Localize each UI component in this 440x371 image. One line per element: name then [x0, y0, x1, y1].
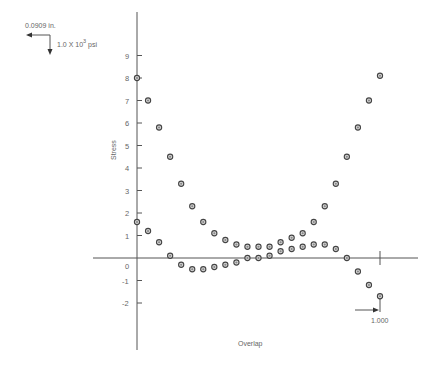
data-point-center [291, 237, 293, 239]
data-point-center [136, 77, 138, 79]
data-point-center [257, 246, 259, 248]
data-point-center [346, 156, 348, 158]
data-point-center [257, 257, 259, 259]
y-tick-label: 2 [125, 209, 129, 218]
x-axis-label: Overlap [238, 340, 263, 348]
data-point-center [202, 221, 204, 223]
data-point-center [191, 205, 193, 207]
data-point-center [180, 183, 182, 185]
data-point-center [324, 205, 326, 207]
data-point-center [169, 156, 171, 158]
horizontal-scale-label: 0.0909 in. [25, 22, 56, 29]
data-point-center [246, 257, 248, 259]
data-point-center [302, 246, 304, 248]
data-point-center [213, 232, 215, 234]
data-point-center [180, 264, 182, 266]
y-tick-label: 1 [125, 232, 129, 241]
data-point-center [136, 221, 138, 223]
data-point-center [224, 239, 226, 241]
y-tick-label: -1 [122, 277, 129, 286]
data-point-center [368, 284, 370, 286]
y-tick-label: 8 [125, 74, 129, 83]
data-point-center [379, 295, 381, 297]
data-point-center [291, 248, 293, 250]
y-tick-label: 4 [125, 164, 129, 173]
data-point-center [268, 255, 270, 257]
data-point-center [246, 246, 248, 248]
data-point-center [357, 126, 359, 128]
vertical-scale-label: 1.0 X 103 psi [57, 38, 97, 49]
data-point-center [235, 261, 237, 263]
y-axis-ticks: 9876543210-1-2 [122, 52, 142, 309]
y-tick-label: 0 [125, 262, 129, 271]
data-point-center [235, 243, 237, 245]
y-axis-label: Stress [110, 140, 117, 160]
y-tick-label: 5 [125, 142, 129, 151]
data-point-center [279, 241, 281, 243]
data-point-center [279, 250, 281, 252]
data-point-center [169, 255, 171, 257]
data-point-center [324, 243, 326, 245]
y-tick-label: 6 [125, 119, 129, 128]
y-tick-label: -2 [122, 299, 129, 308]
x-marker: 1.000 [355, 251, 389, 324]
data-point-center [313, 221, 315, 223]
data-point-center [346, 257, 348, 259]
data-point-center [191, 268, 193, 270]
arrow-right-icon [373, 308, 379, 313]
data-point-center [335, 183, 337, 185]
arrow-down-icon [48, 49, 53, 55]
data-points [134, 73, 382, 299]
data-point-center [158, 241, 160, 243]
data-point-center [147, 99, 149, 101]
x-marker-label: 1.000 [371, 317, 389, 324]
y-tick-label: 9 [125, 52, 129, 61]
data-point-center [158, 126, 160, 128]
data-point-center [313, 243, 315, 245]
data-point-center [302, 232, 304, 234]
data-point-center [335, 248, 337, 250]
data-point-center [147, 230, 149, 232]
y-tick-label: 7 [125, 97, 129, 106]
data-point-center [368, 99, 370, 101]
data-point-center [357, 270, 359, 272]
data-point-center [224, 264, 226, 266]
data-point-center [268, 246, 270, 248]
y-tick-label: 3 [125, 187, 129, 196]
data-point-center [213, 266, 215, 268]
scale-indicator: 0.0909 in. 1.0 X 103 psi [25, 22, 97, 55]
arrow-left-icon [26, 33, 32, 38]
stress-overlap-chart: 0.0909 in. 1.0 X 103 psi 9876543210-1-2 … [0, 0, 440, 371]
data-point-center [379, 75, 381, 77]
data-point-center [202, 268, 204, 270]
